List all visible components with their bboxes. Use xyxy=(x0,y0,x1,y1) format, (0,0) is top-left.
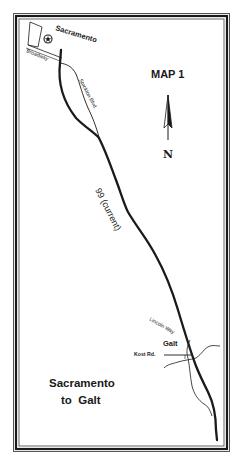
highway-99-label: 99 (current) xyxy=(93,186,123,232)
sacramento-label: Sacramento xyxy=(54,23,98,44)
north-arrow-icon xyxy=(164,95,172,140)
north-label: N xyxy=(163,148,173,161)
broadway-label: Broadway xyxy=(26,47,50,61)
map-frame xyxy=(14,14,230,452)
galt-label: Galt xyxy=(163,339,178,348)
caption-line-1: Sacramento xyxy=(49,377,115,389)
caption-line-2: to Galt xyxy=(61,394,101,406)
map-title: MAP 1 xyxy=(151,68,184,80)
route-map: Broadway Sacramento Stockton Blvd. 99 (c… xyxy=(0,0,242,464)
kost-rd-label: Kost Rd. xyxy=(134,351,156,357)
stockton-blvd-label: Stockton Blvd. xyxy=(78,78,99,110)
lincoln-way-label: Lincoln Way xyxy=(149,316,177,335)
city-marker-icon xyxy=(44,35,52,43)
